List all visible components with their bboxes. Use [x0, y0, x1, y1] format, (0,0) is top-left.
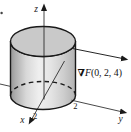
- z-axis-label: z: [33, 4, 38, 14]
- y-axis-left-segment: [0, 84, 11, 86]
- x-axis-label: x: [19, 115, 25, 125]
- gradient-vector-arrow: [73, 49, 123, 59]
- y-axis-tick-2: 2: [73, 101, 77, 111]
- gradient-vector-label: ∇F(0, 2, 4): [78, 67, 122, 79]
- y-axis-label: y: [118, 114, 124, 124]
- cylinder-gradient-figure: z y x 2 2 ∇F(0, 2, 4): [0, 0, 131, 132]
- cylinder-top-face: [11, 27, 76, 57]
- page-artifact-dot: [0, 12, 2, 14]
- x-axis-tick-2: 2: [33, 111, 37, 121]
- evaluation-point: (0, 2, 4): [91, 67, 122, 79]
- y-axis: [72, 100, 122, 111]
